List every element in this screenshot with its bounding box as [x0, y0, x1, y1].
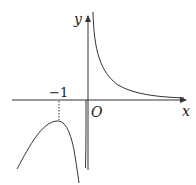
origin-label: O	[91, 104, 103, 120]
x-axis-label: x	[182, 103, 190, 119]
function-graph: y x O −1	[0, 0, 196, 185]
y-axis-label: y	[73, 11, 83, 27]
right-branch-curve	[93, 12, 184, 98]
near-axis-branch-curve	[86, 100, 87, 168]
left-branch-curve	[17, 121, 79, 183]
x-tick-label: −1	[49, 85, 68, 100]
